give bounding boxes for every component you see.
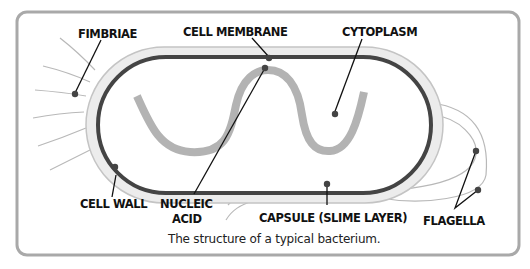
label-cytoplasm: CYTOPLASM xyxy=(342,25,417,39)
label-cell-membrane: CELL MEMBRANE xyxy=(183,25,288,39)
label-capsule: CAPSULE (SLIME LAYER) xyxy=(259,211,407,225)
label-nucleic-acid-line1: NUCLEIC xyxy=(160,197,213,211)
label-flagella: FLAGELLA xyxy=(423,214,485,228)
label-fimbriae: FIMBRIAE xyxy=(78,27,138,41)
figure-caption: The structure of a typical bacterium. xyxy=(167,232,380,246)
label-nucleic-acid-line2: ACID xyxy=(172,212,202,226)
bacterium-diagram: FIMBRIAE CELL MEMBRANE CYTOPLASM CELL WA… xyxy=(0,0,530,269)
label-cell-wall: CELL WALL xyxy=(80,197,148,211)
